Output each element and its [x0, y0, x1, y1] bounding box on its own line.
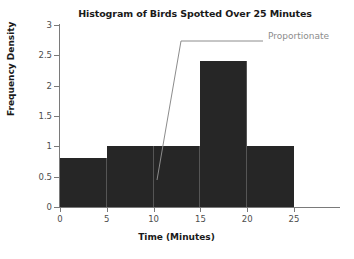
plot-area: [60, 25, 294, 207]
x-axis-title: Time (Minutes): [59, 232, 294, 242]
y-tick-mark: [54, 25, 59, 26]
x-tick-mark: [294, 207, 295, 212]
x-tick-label: 25: [279, 214, 309, 224]
y-tick-label: 2: [10, 81, 52, 91]
chart-title: Histogram of Birds Spotted Over 25 Minut…: [0, 8, 354, 19]
y-axis-title: Frequency Density: [6, 22, 16, 116]
y-tick-label: 1.5: [10, 111, 52, 121]
y-tick-mark: [54, 177, 59, 178]
histogram-bar: [60, 158, 107, 207]
histogram-bar: [154, 146, 201, 207]
y-tick-label: 1: [10, 141, 52, 151]
histogram-bar: [107, 146, 154, 207]
x-tick-mark: [107, 207, 108, 212]
y-tick-label: 3: [10, 20, 52, 30]
y-tick-label: 2.5: [10, 50, 52, 60]
y-tick-mark: [54, 146, 59, 147]
y-tick-mark: [54, 207, 59, 208]
x-tick-label: 20: [232, 214, 262, 224]
x-tick-mark: [154, 207, 155, 212]
histogram-chart-screenshot: Histogram of Birds Spotted Over 25 Minut…: [0, 0, 354, 259]
x-tick-mark: [247, 207, 248, 212]
x-tick-label: 15: [185, 214, 215, 224]
histogram-bar: [247, 146, 294, 207]
x-tick-mark: [200, 207, 201, 212]
y-tick-label: 0: [10, 202, 52, 212]
x-tick-label: 5: [92, 214, 122, 224]
y-tick-mark: [54, 55, 59, 56]
x-tick-label: 0: [45, 214, 75, 224]
y-tick-label: 0.5: [10, 172, 52, 182]
y-tick-mark: [54, 116, 59, 117]
x-tick-label: 10: [139, 214, 169, 224]
annotation-label-proportionate: Proportionate: [268, 31, 329, 41]
histogram-bar: [200, 61, 247, 207]
x-tick-mark: [60, 207, 61, 212]
y-tick-mark: [54, 86, 59, 87]
